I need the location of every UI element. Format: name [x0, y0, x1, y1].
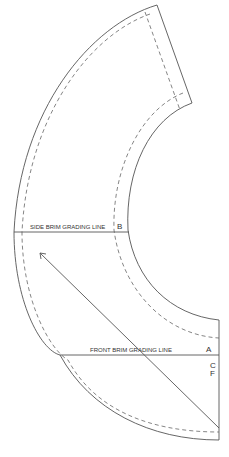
grainline	[40, 253, 219, 428]
top-seam	[145, 12, 180, 110]
cf-f: F	[210, 369, 215, 378]
point-b: B	[117, 222, 122, 231]
front-grading-label: FRONT BRIM GRADING LINE	[90, 347, 172, 353]
top-edge	[157, 5, 192, 103]
side-grading-label: SIDE BRIM GRADING LINE	[30, 224, 105, 230]
inner-edge	[128, 103, 219, 320]
brim-pattern: SIDE BRIM GRADING LINE FRONT BRIM GRADIN…	[0, 0, 229, 457]
point-a: A	[206, 345, 212, 354]
inner-seam	[114, 93, 219, 338]
